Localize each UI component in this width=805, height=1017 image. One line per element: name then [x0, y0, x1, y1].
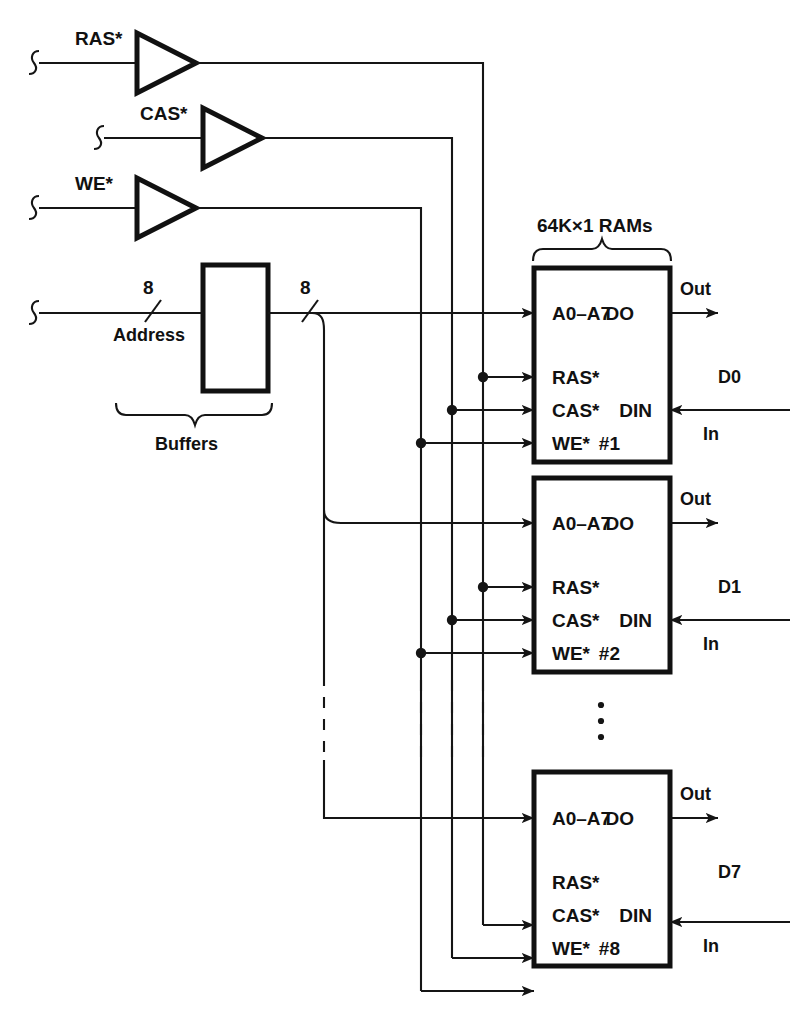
signal-break-cas [94, 126, 104, 149]
ram-1-address-pin-label: A0–A7 [552, 303, 611, 324]
address-slash-out [302, 300, 318, 322]
ram-continuation-ellipsis [598, 702, 604, 740]
address-label: Address [113, 325, 185, 345]
ram-2-we-pin-label: WE* [552, 643, 591, 664]
we-junction-dot-2 [416, 648, 426, 658]
buffers-brace [116, 403, 272, 425]
ram-1-data-label: D0 [718, 367, 741, 387]
ram-8-ras-pin-label: RAS* [552, 872, 600, 893]
ram-1-control-stubs [416, 372, 534, 448]
ram-8-index-label: #8 [599, 938, 620, 959]
ras-junction-dot-1 [478, 372, 488, 382]
buffers-label: Buffers [155, 434, 218, 454]
ram-1-index-label: #1 [599, 433, 621, 454]
ram-1-out-label: Out [680, 279, 711, 299]
ram-1-cas-pin-label: CAS* [552, 400, 600, 421]
ram-8-in-label: In [703, 936, 719, 956]
ram-2-address-pin-label: A0–A7 [552, 513, 611, 534]
ram-array-header-label: 64K×1 RAMs [537, 215, 653, 236]
ras-junction-dot-2 [478, 582, 488, 592]
signal-break-address [29, 301, 39, 324]
ram-2-cas-pin-label: CAS* [552, 610, 600, 631]
ras-bus-route [196, 63, 483, 925]
memory-array-diagram: RAS* CAS* WE* 8 Address 8 Buffers [0, 0, 805, 1017]
ram-1-dout-pin-label: DO [606, 303, 635, 324]
ram-8-we-pin-label: WE* [552, 938, 591, 959]
ram-block-8 [534, 772, 670, 966]
ras-signal-label: RAS* [75, 28, 123, 49]
ram-8-din-pin-label: DIN [619, 905, 652, 926]
address-width-in-label: 8 [143, 277, 154, 298]
ram-2-din-pin-label: DIN [619, 610, 652, 631]
ram-2-index-label: #2 [599, 643, 620, 664]
ram-8-out-label: Out [680, 784, 711, 804]
signal-break-ras [29, 51, 39, 74]
ram-array-brace [533, 239, 671, 261]
cas-bus-route [262, 138, 452, 958]
ram-1-din-pin-label: DIN [619, 400, 652, 421]
ram-2-data-label: D1 [718, 577, 741, 597]
we-signal-label: WE* [75, 173, 114, 194]
ram-2-dout-pin-label: DO [606, 513, 635, 534]
ram-2-in-label: In [703, 634, 719, 654]
ram-2-out-label: Out [680, 489, 711, 509]
address-buffer-block [203, 265, 268, 391]
ram-8-dout-pin-label: DO [606, 808, 635, 829]
cas-junction-dot-2 [447, 615, 457, 625]
ram-1-we-pin-label: WE* [552, 433, 591, 454]
signal-break-we [29, 196, 39, 219]
ras-buffer-triangle [137, 33, 196, 93]
ram-1-ras-pin-label: RAS* [552, 367, 600, 388]
we-buffer-triangle [137, 178, 196, 238]
cas-buffer-triangle [203, 108, 262, 168]
ram-2-ras-pin-label: RAS* [552, 577, 600, 598]
address-slash-in [145, 300, 161, 322]
ram-8-address-pin-label: A0–A7 [552, 808, 611, 829]
ram-8-cas-pin-label: CAS* [552, 905, 600, 926]
cas-signal-label: CAS* [140, 103, 188, 124]
cas-junction-dot-1 [447, 405, 457, 415]
ram-8-control-terminations [421, 925, 534, 991]
address-width-out-label: 8 [300, 277, 311, 298]
ram-8-data-label: D7 [718, 862, 741, 882]
address-bus-drop [312, 313, 534, 818]
ram-1-in-label: In [703, 424, 719, 444]
we-junction-dot-1 [416, 438, 426, 448]
diagram-canvas: RAS* CAS* WE* 8 Address 8 Buffers [0, 0, 805, 1017]
ram-2-control-stubs [416, 582, 534, 658]
